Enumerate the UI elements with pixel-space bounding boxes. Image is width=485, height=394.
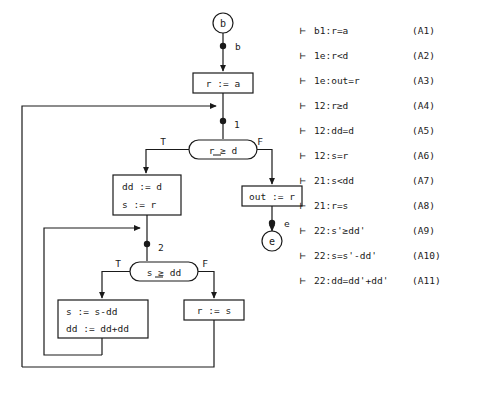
- control-point-b: [220, 43, 226, 49]
- turnstile-icon: ⊢: [300, 243, 312, 268]
- list-item: ⊢ 1e:out=r (A3): [300, 68, 480, 93]
- axiom-label: (A10): [412, 243, 441, 268]
- label-assign-out-r: out := r: [249, 191, 295, 202]
- turnstile-icon: ⊢: [300, 168, 312, 193]
- axiom-label: (A9): [412, 218, 435, 243]
- list-item: ⊢ 22:dd=dd'+dd' (A11): [300, 268, 480, 293]
- label-branch-true-1: T: [160, 136, 166, 147]
- turnstile-icon: ⊢: [300, 218, 312, 243]
- axiom-label: (A3): [412, 68, 435, 93]
- edge-decision2-true: [102, 272, 130, 299]
- axiom-formula: 22:s=s'-dd': [314, 243, 377, 268]
- label-branch-true-2: T: [115, 258, 121, 269]
- list-item: ⊢ b1:r=a (A1): [300, 18, 480, 43]
- label-decision-s-ge-dd: s ≥ dd: [147, 267, 181, 278]
- turnstile-icon: ⊢: [300, 18, 312, 43]
- axiom-formula: 21:s<dd: [314, 168, 354, 193]
- diagram-canvas: b b r := a 1 r ≥ d T F dd := d s := r ou…: [0, 0, 485, 394]
- label-edge-b: b: [235, 41, 241, 52]
- label-assign-r-a: r := a: [206, 78, 240, 89]
- list-item: ⊢ 12:dd=d (A5): [300, 118, 480, 143]
- control-point-2: [144, 241, 150, 247]
- end-node-label: e: [269, 236, 275, 247]
- list-item: ⊢ 1e:r<d (A2): [300, 43, 480, 68]
- turnstile-icon: ⊢: [300, 43, 312, 68]
- list-item: ⊢ 12:r≥d (A4): [300, 93, 480, 118]
- control-point-1: [220, 118, 226, 124]
- label-assign-s-r: s := r: [122, 199, 157, 210]
- axiom-label: (A8): [412, 193, 435, 218]
- label-assign-s-sub: s := s-dd: [66, 306, 117, 317]
- label-assign-dd-d: dd := d: [122, 181, 162, 192]
- axiom-formula: 22:s'≥dd': [314, 218, 365, 243]
- label-decision-r-ge-d: r ≥ d: [209, 145, 238, 156]
- axiom-list: ⊢ b1:r=a (A1) ⊢ 1e:r<d (A2) ⊢ 1e:out=r (…: [300, 18, 480, 293]
- axiom-label: (A2): [412, 43, 435, 68]
- turnstile-icon: ⊢: [300, 68, 312, 93]
- axiom-label: (A11): [412, 268, 441, 293]
- axiom-formula: 21:r=s: [314, 193, 348, 218]
- label-edge-e: e: [284, 218, 290, 229]
- edge-decision1-false: [257, 150, 272, 185]
- axiom-formula: 12:r≥d: [314, 93, 348, 118]
- axiom-formula: 1e:out=r: [314, 68, 360, 93]
- turnstile-icon: ⊢: [300, 193, 312, 218]
- list-item: ⊢ 22:s=s'-dd' (A10): [300, 243, 480, 268]
- edge-decision1-true: [146, 150, 189, 174]
- label-branch-false-2: F: [202, 258, 208, 269]
- list-item: ⊢ 21:s<dd (A7): [300, 168, 480, 193]
- label-point-2: 2: [158, 242, 164, 253]
- axiom-formula: 1e:r<d: [314, 43, 348, 68]
- list-item: ⊢ 22:s'≥dd' (A9): [300, 218, 480, 243]
- axiom-label: (A4): [412, 93, 435, 118]
- list-item: ⊢ 12:s=r (A6): [300, 143, 480, 168]
- axiom-label: (A6): [412, 143, 435, 168]
- edge-decision2-false: [198, 272, 214, 299]
- axiom-label: (A1): [412, 18, 435, 43]
- turnstile-icon: ⊢: [300, 143, 312, 168]
- turnstile-icon: ⊢: [300, 118, 312, 143]
- axiom-formula: 12:s=r: [314, 143, 348, 168]
- turnstile-icon: ⊢: [300, 268, 312, 293]
- label-point-1: 1: [234, 119, 240, 130]
- axiom-formula: b1:r=a: [314, 18, 348, 43]
- axiom-formula: 22:dd=dd'+dd': [314, 268, 388, 293]
- axiom-label: (A7): [412, 168, 435, 193]
- control-point-e: [269, 220, 275, 226]
- axiom-label: (A5): [412, 118, 435, 143]
- turnstile-icon: ⊢: [300, 93, 312, 118]
- list-item: ⊢ 21:r=s (A8): [300, 193, 480, 218]
- label-assign-r-s: r := s: [197, 305, 231, 316]
- axiom-formula: 12:dd=d: [314, 118, 354, 143]
- start-node-label: b: [220, 18, 226, 29]
- label-branch-false-1: F: [257, 136, 263, 147]
- label-assign-dd-add: dd := dd+dd: [66, 323, 129, 334]
